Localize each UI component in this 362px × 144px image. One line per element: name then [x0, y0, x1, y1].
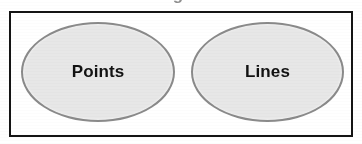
node-lines-label: Lines	[245, 62, 290, 82]
node-points[interactable]: Points	[21, 22, 175, 122]
node-points-label: Points	[72, 62, 125, 82]
clipped-caption-fragment: g	[165, 0, 191, 3]
diagram-frame: Points Lines	[9, 11, 353, 137]
node-lines[interactable]: Lines	[191, 22, 344, 122]
diagram-canvas: Points Lines	[11, 13, 351, 135]
figure-root: g Points Lines	[0, 0, 362, 144]
